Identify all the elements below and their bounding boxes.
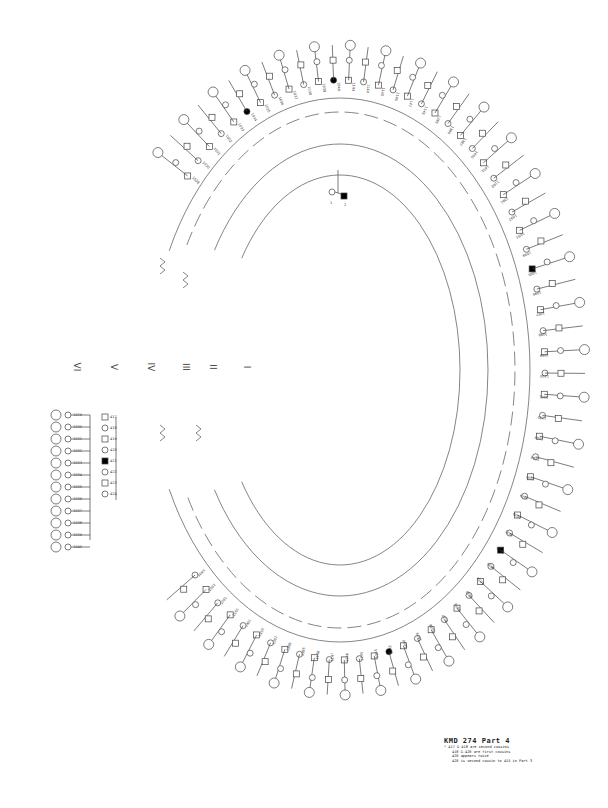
- individual-id: 1030: [201, 161, 210, 170]
- female-symbol: [65, 544, 71, 550]
- offspring-count-badge: [208, 87, 218, 97]
- individual-id: 2: [344, 203, 346, 207]
- offspring-count-badge: [51, 494, 61, 504]
- offspring-count-badge: [574, 439, 584, 449]
- individual-id: 1039: [322, 83, 327, 92]
- generation-label: III: [181, 363, 191, 371]
- individual-id: 1035: [465, 590, 474, 599]
- offspring-count-badge: [479, 102, 489, 112]
- generation-label: I: [242, 366, 252, 369]
- male-symbol: [556, 325, 562, 331]
- relationship-line: [543, 326, 583, 331]
- male-symbol: [184, 143, 190, 149]
- break-mark: [196, 425, 201, 441]
- individual-id: 1147: [330, 653, 334, 662]
- female-symbol: [346, 57, 352, 63]
- offspring-count-badge: [444, 656, 454, 666]
- female-symbol: [278, 666, 284, 672]
- offspring-count-badge: [274, 50, 284, 60]
- individual-id: 1143: [388, 645, 394, 655]
- relationship-line: [532, 257, 569, 269]
- offspring-count-badge: [51, 410, 61, 420]
- female-symbol: [65, 472, 71, 478]
- male-symbol: [390, 668, 396, 674]
- female-symbol: [193, 602, 199, 608]
- female-symbol: [102, 469, 108, 475]
- offspring-count-badge: [304, 687, 314, 697]
- male-symbol: [237, 91, 243, 97]
- offspring-count-badge: [475, 632, 485, 642]
- break-mark: [160, 425, 165, 441]
- relationship-line: [536, 457, 574, 467]
- individual-id: 1037: [292, 90, 298, 100]
- individual-id: 1038: [307, 86, 313, 95]
- female-symbol: [410, 74, 416, 80]
- female-symbol: [102, 491, 108, 497]
- female-symbol: [405, 662, 411, 668]
- offspring-count-badge: [345, 40, 355, 50]
- individual-id: 1146: [345, 653, 349, 662]
- individual-id: 1032: [224, 134, 232, 144]
- male-symbol: [102, 414, 108, 420]
- individual-id: 1450: [258, 628, 265, 638]
- female-symbol: [247, 650, 253, 656]
- female-symbol: [309, 675, 315, 681]
- individual-id: 1098: [538, 332, 547, 337]
- female-symbol: [223, 102, 229, 108]
- female-symbol: [542, 481, 548, 487]
- male-symbol: [500, 577, 506, 583]
- generation-label: IV: [146, 363, 156, 372]
- male-symbol: [555, 415, 561, 421]
- female-symbol: [65, 460, 71, 466]
- female-symbol: [510, 560, 516, 566]
- offspring-count-badge: [547, 528, 557, 538]
- individual-id: 1160: [232, 608, 240, 618]
- relationship-line: [501, 550, 532, 572]
- female-symbol: [102, 447, 108, 453]
- relationship-line: [544, 394, 584, 397]
- female-symbol: [544, 259, 550, 265]
- female-symbol: [196, 128, 202, 134]
- offspring-count-badge: [530, 169, 540, 179]
- female-symbol: [65, 412, 71, 418]
- male-symbol: [520, 541, 526, 547]
- male-symbol: [421, 654, 427, 660]
- female-symbol: [282, 67, 288, 73]
- offspring-count-badge: [503, 602, 513, 612]
- female-symbol: [557, 393, 563, 399]
- offspring-count-badge: [51, 470, 61, 480]
- male-symbol: [233, 640, 239, 646]
- male-symbol: [449, 634, 455, 640]
- male-symbol: [394, 68, 400, 74]
- offspring-count-badge: [565, 252, 575, 262]
- male-symbol: [330, 57, 336, 63]
- female-symbol: [467, 116, 473, 122]
- female-symbol: [102, 425, 108, 431]
- female-symbol: [463, 622, 469, 628]
- female-symbol: [553, 303, 559, 309]
- female-symbol: [378, 62, 384, 68]
- offspring-count-badge: [51, 482, 61, 492]
- offspring-count-badge: [51, 506, 61, 516]
- female-symbol: [492, 146, 498, 152]
- relationship-line: [503, 174, 535, 195]
- male-symbol: [538, 238, 544, 244]
- individual-id: 1029: [191, 176, 200, 185]
- relationship-line: [537, 279, 575, 289]
- offspring-count-badge: [340, 690, 350, 700]
- male-symbol: [476, 608, 482, 614]
- male-symbol: [503, 162, 509, 168]
- individual-id: 1101: [539, 395, 548, 400]
- individual-id: 1091: [219, 596, 228, 606]
- offspring-count-badge: [269, 678, 279, 688]
- pedigree-nodes: 1210291030103110321033103410351036103710…: [51, 40, 590, 700]
- male-symbol: [362, 59, 368, 65]
- generation-ring: [169, 98, 530, 642]
- individual-id: 1387: [272, 635, 279, 645]
- female-symbol: [314, 59, 320, 65]
- female-symbol: [435, 645, 441, 651]
- offspring-count-badge: [51, 458, 61, 468]
- relationship-line: [541, 302, 580, 309]
- offspring-count-badge: [527, 567, 537, 577]
- offspring-count-badge: [411, 674, 421, 684]
